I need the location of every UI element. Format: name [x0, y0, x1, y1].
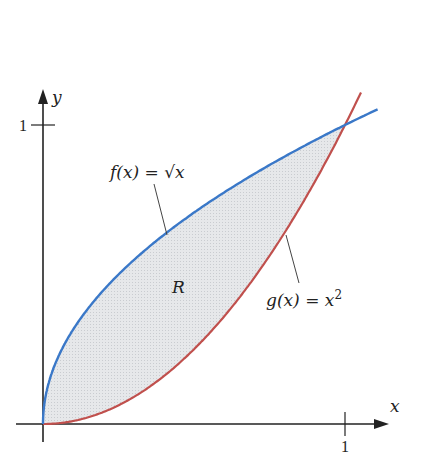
- g-label-leader-line: [286, 235, 299, 283]
- g-curve-label-exponent: 2: [334, 288, 342, 302]
- region-label: R: [171, 277, 185, 297]
- area-between-curves-diagram: y x 1 1 f(x) = √x g(x) = x2 R: [0, 0, 421, 457]
- g-curve-label-base: g(x) = x: [266, 290, 335, 310]
- x-tick-label: 1: [341, 438, 349, 455]
- region-r-shading: [43, 125, 345, 424]
- g-curve-label: g(x) = x2: [266, 288, 342, 310]
- y-axis-arrow-icon: [38, 89, 48, 104]
- f-label-leader-line: [154, 184, 167, 235]
- x-axis-label: x: [390, 396, 400, 416]
- y-axis-label: y: [51, 87, 62, 107]
- y-tick-label: 1: [19, 117, 27, 134]
- f-curve-label: f(x) = √x: [108, 162, 185, 182]
- x-axis-arrow-icon: [374, 419, 389, 429]
